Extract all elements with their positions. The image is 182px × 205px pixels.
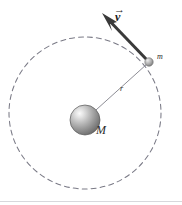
radius-label: r <box>120 85 123 93</box>
velocity-vector-label: v→ <box>115 11 120 23</box>
central-mass-label: M <box>96 124 106 136</box>
orbiting-mass-label: m <box>157 53 163 61</box>
figure-canvas <box>0 0 182 205</box>
orbiting-mass-sphere <box>145 58 153 66</box>
velocity-vector-shaft <box>111 22 148 61</box>
vector-accent-arrow-icon: → <box>114 4 125 15</box>
orbital-motion-figure: M m r v→ <box>0 0 182 205</box>
